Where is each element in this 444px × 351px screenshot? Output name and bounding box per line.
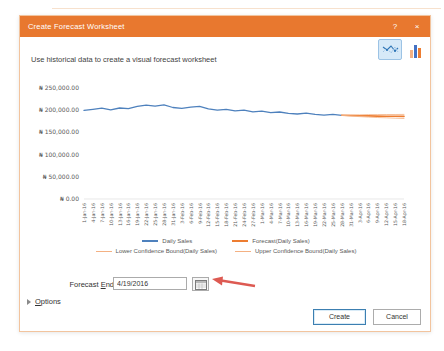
x-axis-tick-label: 4-Mar-16 [269,203,274,224]
options-label: Options [35,297,61,306]
bar-chart-icon [410,50,413,58]
x-axis-tick-label: 15-Apr-16 [393,203,398,226]
x-axis-tick-label: 22-Jan-16 [144,203,149,226]
x-axis-tick-label: 18-Feb-16 [224,203,229,227]
y-axis-tick-label: ₦ 100,000.00 [39,151,79,158]
legend-item: Lower Confidence Bound(Daily Sales) [96,248,217,254]
legend-item: Daily Sales [142,238,192,244]
legend-label: Forecast(Daily Sales) [252,238,309,244]
y-axis-tick-label: ₦ 200,000.00 [39,106,79,113]
chart-legend: Daily Sales Forecast(Daily Sales) Lower … [31,238,421,258]
x-axis-tick-label: 16-Jan-16 [126,203,131,226]
x-axis-tick-label: 4-Jan-16 [91,203,96,223]
bar-chart-icon [414,45,417,58]
expand-triangle-icon [27,299,31,305]
bar-chart-icon [418,48,421,58]
x-axis-tick-label: 13-Jan-16 [118,203,123,226]
dialog-title: Create Forecast Worksheet [28,22,384,31]
date-picker-button[interactable] [192,277,209,291]
y-axis-tick-label: ₦ 0.00 [60,195,79,202]
forecast-end-input[interactable] [113,277,187,290]
x-axis-tick-label: 19-Jan-16 [135,203,140,226]
background-artifact-line [52,8,441,9]
create-forecast-worksheet-dialog: Create Forecast Worksheet ? × Use histor… [19,15,431,332]
x-axis-tick-label: 13-Mar-16 [295,203,300,227]
annotation-arrow [211,275,261,292]
bar-chart-type-button[interactable] [407,42,423,58]
line-chart-type-button[interactable] [378,39,402,60]
x-axis-tick-label: 10-Jan-16 [109,203,114,226]
x-axis-tick-label: 9-Feb-16 [198,203,203,224]
calendar-icon [195,279,207,290]
x-axis-tick-label: 3-Apr-16 [358,203,363,223]
cancel-button[interactable]: Cancel [373,309,421,325]
x-axis-tick-label: 9-Apr-16 [375,203,380,223]
upper-bound-swatch [235,251,251,252]
legend-label: Lower Confidence Bound(Daily Sales) [116,248,217,254]
legend-label: Upper Confidence Bound(Daily Sales) [255,248,356,254]
options-expander[interactable]: Options [27,297,61,306]
x-axis-tick-label: 28-Mar-16 [340,203,345,227]
x-axis-tick-label: 25-Jan-16 [153,203,158,226]
x-axis-tick-label: 31-Mar-16 [349,203,354,227]
dialog-title-bar[interactable]: Create Forecast Worksheet ? × [20,16,430,37]
x-axis-tick-label: 7-Jan-16 [100,203,105,223]
x-axis-tick-label: 18-Apr-16 [402,203,407,226]
lower-bound-swatch [96,251,112,252]
forecast-swatch [232,240,248,242]
close-button[interactable]: × [406,18,428,35]
x-axis-tick-label: 10-Mar-16 [286,203,291,227]
daily-sales-swatch [142,240,158,242]
forecast-end-label: Forecast End [34,280,114,289]
x-axis-tick-label: 6-Apr-16 [366,203,371,223]
x-axis-tick-label: 3-Feb-16 [180,203,185,224]
x-axis-tick-label: 24-Feb-16 [242,203,247,227]
x-axis-tick-label: 25-Mar-16 [331,203,336,227]
x-axis-tick-label: 19-Mar-16 [313,203,318,227]
x-axis-tick-label: 1-Mar-16 [260,203,265,224]
instruction-text: Use historical data to create a visual f… [31,55,217,64]
x-axis-tick-label: 22-Mar-16 [322,203,327,227]
x-axis-tick-label: 6-Feb-16 [189,203,194,224]
x-axis-tick-label: 21-Feb-16 [233,203,238,227]
create-button[interactable]: Create [313,309,366,325]
y-axis-tick-label: ₦ 250,000.00 [39,84,79,91]
x-axis-tick-label: 1-Jan-16 [82,203,87,223]
series-line-daily-sales [84,105,342,115]
x-axis-tick-label: 28-Jan-16 [162,203,167,226]
series-line-upper-confidence-bound-daily-sales- [342,114,404,115]
legend-label: Daily Sales [162,238,192,244]
x-axis-tick-label: 16-Mar-16 [304,203,309,227]
x-axis-tick-label: 31-Jan-16 [171,203,176,226]
y-axis-tick-label: ₦ 150,000.00 [39,128,79,135]
legend-item: Upper Confidence Bound(Daily Sales) [235,248,356,254]
x-axis-tick-label: 12-Apr-16 [384,203,389,226]
x-axis-tick-label: 7-Mar-16 [278,203,283,224]
line-chart-icon [382,43,399,56]
forecast-chart: ₦ 250,000.00₦ 200,000.00₦ 150,000.00₦ 10… [31,79,421,237]
y-axis-tick-label: ₦ 50,000.00 [43,173,79,180]
x-axis-tick-label: 27-Feb-16 [251,203,256,227]
help-button[interactable]: ? [384,18,406,35]
chart-type-selector [378,39,423,60]
x-axis-tick-label: 15-Feb-16 [215,203,220,227]
x-axis-tick-label: 12-Feb-16 [206,203,211,227]
legend-item: Forecast(Daily Sales) [232,238,309,244]
